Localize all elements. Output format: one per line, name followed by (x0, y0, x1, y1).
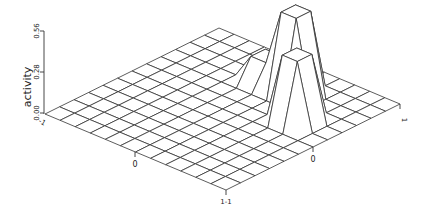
x-tick-label-0: 0 (132, 160, 137, 169)
surface-plot: activity 0.00 0.28 0.56 -1 0 1-1 0 1 (0, 0, 422, 221)
surface-mesh (45, 5, 400, 190)
front-corner-label: 1-1 (220, 198, 231, 206)
z-tick-label-028: 0.28 (33, 64, 41, 80)
z-tick-label-056: 0.56 (33, 23, 41, 39)
y-tick-label-1: 1 (400, 118, 408, 122)
y-tick-label-0: 0 (310, 155, 315, 164)
